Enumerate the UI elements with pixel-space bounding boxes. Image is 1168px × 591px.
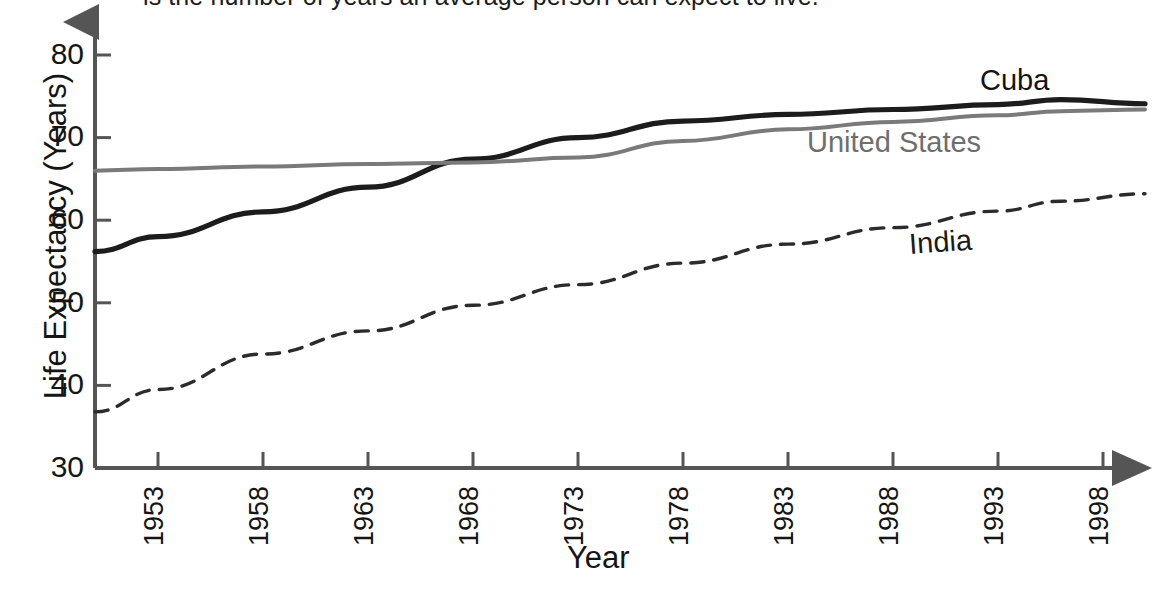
series-line-cuba bbox=[95, 100, 1145, 252]
plot-area bbox=[0, 0, 1168, 591]
series-line-india bbox=[95, 194, 1145, 412]
data-series-lines bbox=[95, 100, 1145, 412]
axis-lines bbox=[95, 22, 1148, 468]
series-line-united-states bbox=[95, 110, 1145, 171]
chart-container: is the number of years an average person… bbox=[0, 0, 1168, 591]
